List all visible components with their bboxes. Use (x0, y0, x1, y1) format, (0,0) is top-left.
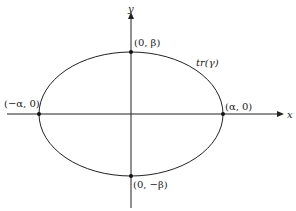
x-axis-arrow-icon (277, 111, 284, 117)
point-top (129, 50, 133, 54)
point-left-label: (−α, 0) (4, 98, 40, 109)
point-bottom-label: (0, −β) (133, 179, 168, 190)
point-left (37, 112, 41, 116)
x-axis-label: x (287, 109, 293, 120)
point-right-label: (α, 0) (225, 101, 252, 112)
curve-label: tr(γ) (196, 57, 219, 68)
point-top-label: (0, β) (134, 37, 160, 48)
point-right (221, 112, 225, 116)
point-bottom (129, 174, 133, 178)
y-axis-label: y (127, 3, 134, 14)
ellipse-diagram: y x tr(γ) (0, β) (0, −β) (−α, 0) (α, 0) (0, 0, 296, 211)
